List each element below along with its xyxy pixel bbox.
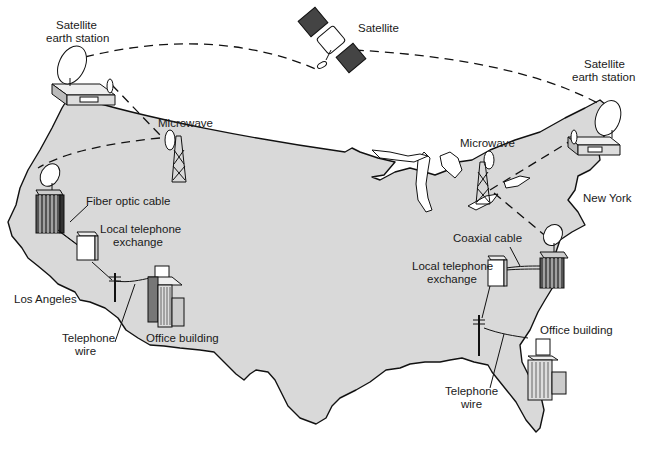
label-earth-station-east-1: Satellite	[584, 58, 625, 70]
label-microwave-east: Microwave	[460, 137, 515, 149]
us-telecom-diagram: Satellite Satellite earth station Satell…	[0, 0, 645, 449]
label-local-exchange-east-1: Local telephone	[412, 260, 493, 272]
label-office-building-west: Office building	[146, 332, 219, 344]
label-telephone-wire-east-2: wire	[460, 398, 482, 410]
label-local-exchange-west-2: exchange	[113, 236, 163, 248]
label-coaxial-cable: Coaxial cable	[453, 232, 522, 244]
label-telephone-wire-west-2: wire	[74, 345, 96, 357]
office-building-east-icon	[528, 339, 566, 400]
label-new-york: New York	[583, 192, 632, 204]
label-satellite: Satellite	[358, 22, 399, 34]
label-earth-station-east-2: earth station	[572, 71, 635, 83]
label-fiber-optic-cable: Fiber optic cable	[86, 195, 170, 207]
label-los-angeles: Los Angeles	[14, 293, 77, 305]
label-earth-station-west-1: Satellite	[56, 19, 97, 31]
label-local-exchange-west-1: Local telephone	[100, 223, 181, 235]
label-telephone-wire-east-1: Telephone	[445, 385, 498, 397]
diagram-canvas: Satellite Satellite earth station Satell…	[0, 0, 645, 449]
satellite-link-west	[85, 44, 318, 70]
earth-station-west-icon	[52, 41, 115, 105]
label-telephone-wire-west-1: Telephone	[62, 332, 115, 344]
label-microwave-west: Microwave	[158, 117, 213, 129]
us-map	[8, 95, 612, 432]
local-exchange-west-icon	[77, 232, 98, 260]
label-office-building-east: Office building	[540, 324, 613, 336]
label-local-exchange-east-2: exchange	[427, 273, 477, 285]
satellite-icon	[298, 7, 366, 72]
label-earth-station-west-2: earth station	[46, 32, 109, 44]
